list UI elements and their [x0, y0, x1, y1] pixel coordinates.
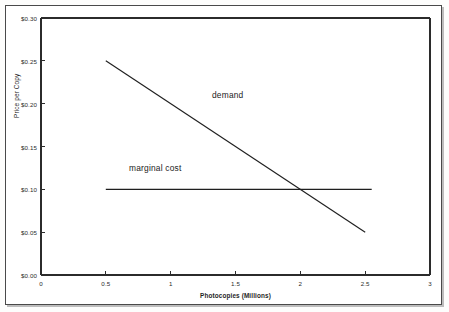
- x-tick-label-2: 1: [169, 280, 173, 287]
- demand-series-label: demand: [212, 90, 243, 100]
- x-tick-marks: [41, 271, 430, 275]
- x-tick-label-4: 2: [299, 280, 303, 287]
- chart-plot-area: [0, 0, 449, 312]
- page-background: $0.00 $0.05 $0.10 $0.15 $0.20 $0.25 $0.3…: [0, 0, 449, 312]
- x-tick-label-0: 0: [39, 280, 43, 287]
- demand-line: [106, 61, 365, 232]
- marginal-cost-series-label: marginal cost: [129, 163, 181, 173]
- y-tick-label-1: $0.05: [14, 229, 37, 236]
- y-tick-label-6: $0.30: [14, 15, 37, 22]
- x-tick-label-5: 2.5: [361, 280, 370, 287]
- x-tick-label-3: 1.5: [231, 280, 240, 287]
- x-axis-title: Photocopies (Millions): [41, 292, 430, 299]
- y-tick-label-2: $0.10: [14, 186, 37, 193]
- x-tick-label-1: 0.5: [101, 280, 110, 287]
- y-tick-label-5: $0.25: [14, 57, 37, 64]
- y-tick-label-0: $0.00: [14, 272, 37, 279]
- y-tick-marks: [41, 18, 45, 275]
- y-axis-title: Price per Copy: [13, 74, 20, 118]
- x-tick-label-6: 3: [428, 280, 432, 287]
- y-tick-label-3: $0.15: [14, 143, 37, 150]
